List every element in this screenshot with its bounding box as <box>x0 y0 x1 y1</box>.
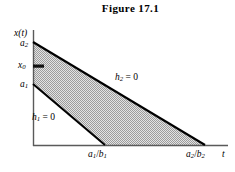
y-tick-label-x0: x0 <box>18 61 26 71</box>
y-tick-label-a2: a2 <box>20 39 28 49</box>
annotation-h2: h2 = 0 <box>115 73 138 83</box>
x-tick-label-a2b2: a2/b2 <box>186 150 205 160</box>
y-tick-label-a1: a1 <box>20 80 28 90</box>
plot-svg <box>0 0 235 172</box>
annotation-h1: h1 = 0 <box>32 113 55 123</box>
x-axis-label: t <box>222 150 225 160</box>
x-tick-label-a1b1: a1/b1 <box>88 150 107 160</box>
figure-container: Figure 17.1 x(t) a2 x0 a1 h2 = 0 h1 = 0 … <box>0 0 235 172</box>
x0-marker <box>33 65 44 68</box>
